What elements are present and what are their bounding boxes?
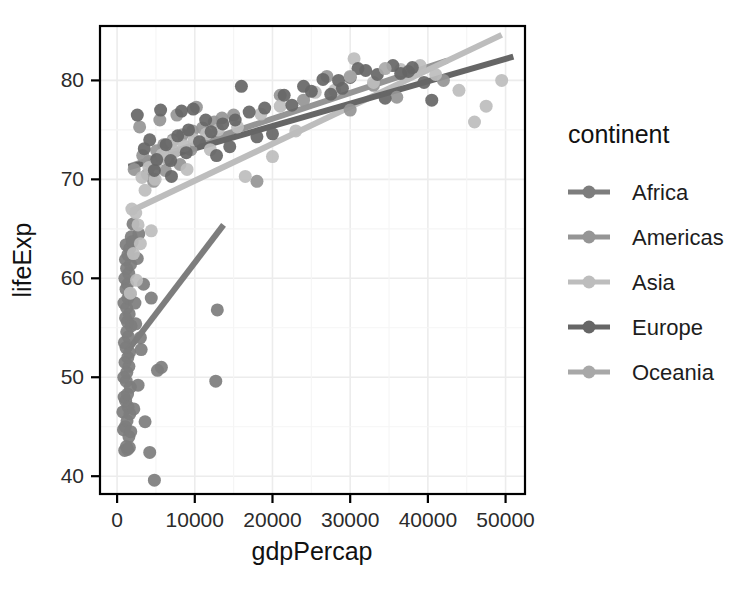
data-point-asia: [468, 115, 481, 128]
legend-item-label: Africa: [632, 180, 689, 205]
legend-item-label: Oceania: [632, 360, 715, 385]
data-point-europe: [205, 125, 218, 138]
data-point-europe: [175, 105, 188, 118]
y-tick-label: 40: [61, 464, 84, 487]
data-point-asia: [266, 150, 279, 163]
data-point-americas: [250, 175, 263, 188]
y-tick-label: 60: [61, 266, 84, 289]
data-point-europe: [285, 99, 298, 112]
data-point-asia: [452, 84, 465, 97]
data-point-europe: [332, 74, 345, 87]
data-point-europe: [394, 67, 407, 80]
y-tick-label: 50: [61, 365, 84, 388]
data-point-europe: [187, 103, 200, 116]
x-axis-title: gdpPercap: [252, 537, 373, 565]
x-axis: 01000020000300004000050000: [111, 494, 535, 531]
data-point-asia: [480, 100, 493, 113]
legend-item-africa[interactable]: Africa: [568, 180, 689, 205]
data-point-americas: [390, 91, 403, 104]
y-tick-label: 70: [61, 167, 84, 190]
data-point-africa: [145, 292, 158, 305]
legend-item-label: Europe: [632, 315, 703, 340]
data-point-asia: [289, 124, 302, 137]
data-point-asia: [145, 224, 158, 237]
y-axis-title: lifeExp: [8, 222, 36, 297]
x-tick-label: 40000: [399, 508, 457, 531]
data-point-africa: [148, 474, 161, 487]
data-point-europe: [180, 146, 193, 159]
data-point-asia: [132, 218, 145, 231]
data-point-asia: [134, 237, 147, 250]
legend-item-asia[interactable]: Asia: [568, 270, 676, 295]
data-point-asia: [125, 203, 138, 216]
data-point-europe: [154, 104, 167, 117]
legend-item-label: Americas: [632, 225, 724, 250]
legend-key-point: [583, 276, 596, 289]
y-axis: 4050607080: [61, 68, 100, 487]
legend: AfricaAmericasAsiaEuropeOceania: [568, 180, 724, 385]
x-tick-label: 50000: [476, 508, 534, 531]
data-point-asia: [495, 74, 508, 87]
data-point-europe: [131, 109, 144, 122]
legend-item-europe[interactable]: Europe: [568, 315, 703, 340]
data-point-asia: [139, 184, 152, 197]
scatter-chart: 01000020000300004000050000 4050607080 gd…: [0, 0, 748, 592]
data-point-europe: [223, 140, 236, 153]
data-point-europe: [210, 149, 223, 162]
x-tick-label: 0: [111, 508, 123, 531]
data-point-africa: [139, 415, 152, 428]
data-point-europe: [243, 106, 256, 119]
legend-item-americas[interactable]: Americas: [568, 225, 724, 250]
data-point-europe: [164, 154, 177, 167]
data-point-africa: [143, 446, 156, 459]
legend-key-point: [583, 186, 596, 199]
data-point-europe: [379, 92, 392, 105]
data-point-europe: [229, 113, 242, 126]
legend-key-point: [583, 231, 596, 244]
data-point-africa: [127, 402, 140, 415]
legend-key-point: [583, 366, 596, 379]
data-point-europe: [165, 170, 178, 183]
data-point-europe: [324, 88, 337, 101]
data-point-africa: [123, 441, 136, 454]
data-point-europe: [182, 123, 195, 136]
data-point-africa: [134, 331, 147, 344]
data-point-europe: [258, 102, 271, 115]
data-point-europe: [148, 164, 161, 177]
data-point-europe: [406, 61, 419, 74]
data-point-europe: [138, 142, 151, 155]
data-point-europe: [160, 138, 173, 151]
data-point-asia: [181, 163, 194, 176]
data-point-europe: [216, 117, 229, 130]
data-point-europe: [417, 76, 430, 89]
legend-item-oceania[interactable]: Oceania: [568, 360, 715, 385]
x-tick-label: 10000: [166, 508, 224, 531]
data-point-europe: [199, 113, 212, 126]
data-point-asia: [239, 170, 252, 183]
data-point-africa: [209, 375, 222, 388]
data-point-europe: [266, 127, 279, 140]
legend-key-point: [583, 321, 596, 334]
data-point-europe: [193, 135, 206, 148]
x-tick-label: 30000: [321, 508, 379, 531]
data-point-africa: [129, 317, 142, 330]
data-point-africa: [211, 303, 224, 316]
data-point-europe: [235, 80, 248, 93]
data-point-africa: [124, 425, 137, 438]
legend-title: continent: [568, 120, 670, 148]
legend-item-label: Asia: [632, 270, 676, 295]
chart-canvas: 01000020000300004000050000 4050607080 gd…: [0, 0, 748, 592]
data-point-oceania: [379, 62, 392, 75]
data-point-asia: [130, 274, 143, 287]
data-point-europe: [305, 85, 318, 98]
data-point-europe: [425, 94, 438, 107]
data-point-africa: [132, 379, 145, 392]
data-point-africa: [155, 361, 168, 374]
data-point-asia: [124, 287, 137, 300]
data-point-europe: [150, 153, 163, 166]
y-tick-label: 80: [61, 68, 84, 91]
data-point-americas: [133, 120, 146, 133]
data-point-africa: [135, 343, 148, 356]
x-tick-label: 20000: [243, 508, 301, 531]
data-point-asia: [429, 68, 442, 81]
